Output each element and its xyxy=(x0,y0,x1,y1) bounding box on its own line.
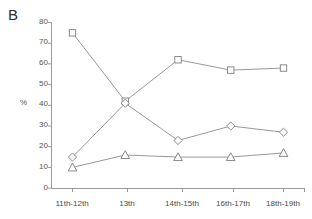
data-point-square-2 xyxy=(175,57,181,63)
x-axis-ticks xyxy=(73,189,305,193)
data-point-diamond-4 xyxy=(279,128,287,136)
chart-plot-area xyxy=(0,0,312,219)
series-line-diamond xyxy=(73,103,284,157)
y-axis-ticks xyxy=(48,23,52,189)
data-point-triangle-4 xyxy=(279,149,288,157)
data-point-diamond-3 xyxy=(227,122,235,130)
figure-panel-b: B % 80 70 60 50 40 30 20 10 0 11th-12th … xyxy=(0,0,312,219)
data-point-square-0 xyxy=(69,30,75,36)
data-point-square-3 xyxy=(228,67,234,73)
data-point-triangle-1 xyxy=(121,151,130,159)
series-line-square xyxy=(73,33,284,101)
data-point-square-4 xyxy=(280,65,286,71)
data-point-diamond-2 xyxy=(174,136,182,144)
data-series-layer xyxy=(68,30,288,171)
